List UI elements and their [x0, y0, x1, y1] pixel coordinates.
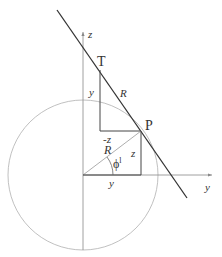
point-t-label: T	[97, 54, 106, 69]
upper-y-label: y	[88, 86, 94, 98]
tangent-r-label: R	[119, 87, 127, 99]
z-segment-label: z	[130, 147, 136, 159]
radius-r-label: R	[103, 143, 112, 157]
y-axis-label: y	[204, 181, 210, 193]
tangent-circle-diagram: z y T P R y -z R z ϕl y	[0, 0, 222, 257]
tangent-line	[57, 10, 187, 198]
z-axis-label: z	[87, 28, 93, 40]
lower-y-label: y	[108, 177, 114, 189]
phi-label: ϕl	[113, 156, 122, 171]
point-p-label: P	[145, 118, 153, 133]
